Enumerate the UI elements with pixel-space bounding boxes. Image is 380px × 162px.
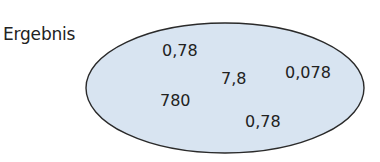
set-element-7-8: 7,8 xyxy=(221,70,246,88)
set-element-780: 780 xyxy=(160,92,191,110)
set-element-0-78-top: 0,78 xyxy=(162,42,198,60)
set-element-0-78-bottom: 0,78 xyxy=(245,113,281,131)
set-element-0-078: 0,078 xyxy=(285,64,331,82)
